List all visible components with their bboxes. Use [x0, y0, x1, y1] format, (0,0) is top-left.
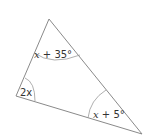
triangle-diagram: x + 35° 2x x + 5° — [0, 0, 144, 140]
angle-label-bottom-right: x + 5° — [93, 109, 125, 120]
angle-label-left: 2x — [20, 87, 32, 98]
angle-label-top: x + 35° — [34, 49, 72, 60]
